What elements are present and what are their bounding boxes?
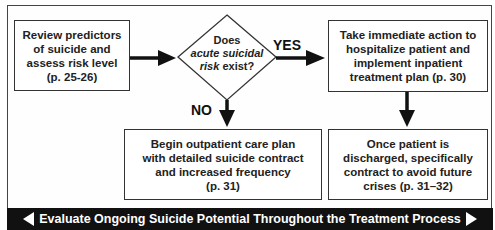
node-text-line: (p. 25-26) xyxy=(47,70,98,84)
decision-text-italic: acute suicidal xyxy=(191,47,264,59)
node-text-line: Take immediate action to xyxy=(340,28,477,42)
left-triangle-icon xyxy=(23,212,34,226)
decision-text-italic: risk xyxy=(200,60,220,72)
node-decision-acute-risk: Does acute suicidal risk exist? xyxy=(178,34,276,73)
node-text-line: crises (p. 31–32) xyxy=(363,179,453,193)
edge-label-no: NO xyxy=(191,102,212,118)
footer-banner: Evaluate Ongoing Suicide Potential Throu… xyxy=(7,208,493,230)
decision-text-line: exist? xyxy=(219,60,254,72)
node-text-line: Review predictors xyxy=(22,28,121,42)
node-inpatient-plan: Take immediate action to hospitalize pat… xyxy=(328,20,488,92)
node-text-line: and increased frequency xyxy=(155,165,291,179)
node-text-line: treatment plan (p. 30) xyxy=(350,70,466,84)
node-text-line: hospitalize patient and xyxy=(346,42,470,56)
decision-text-line: Does xyxy=(178,34,276,47)
footer-banner-text: Evaluate Ongoing Suicide Potential Throu… xyxy=(39,212,461,226)
node-text-line: Begin outpatient care plan xyxy=(151,137,295,151)
node-outpatient-plan: Begin outpatient care plan with detailed… xyxy=(124,129,322,200)
node-assess-risk: Review predictors of suicide and assess … xyxy=(14,20,130,91)
edge-label-yes: YES xyxy=(273,37,301,53)
node-text-line: (p. 31) xyxy=(206,179,240,193)
node-discharge-contract: Once patient is discharged, specifically… xyxy=(328,129,488,200)
right-triangle-icon xyxy=(466,212,477,226)
node-text-line: implement inpatient xyxy=(354,56,463,70)
node-text-line: of suicide and xyxy=(33,42,110,56)
node-text-line: discharged, specifically xyxy=(343,151,473,165)
node-text-line: Once patient is xyxy=(367,137,449,151)
node-text-line: with detailed suicide contract xyxy=(142,151,303,165)
node-text-line: contract to avoid future xyxy=(344,165,472,179)
node-text-line: assess risk level xyxy=(27,56,118,70)
